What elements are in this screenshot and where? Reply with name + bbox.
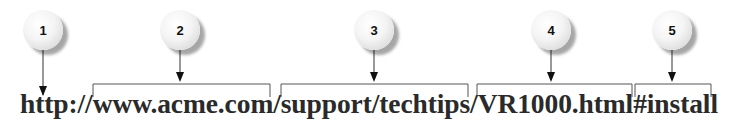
callout-1: 1 xyxy=(23,10,63,50)
callout-4: 4 xyxy=(531,10,571,50)
url-text: http://www.acme.com/support/techtips/VR1… xyxy=(20,88,718,120)
callout-5: 5 xyxy=(652,10,692,50)
url-anatomy-diagram: 1 2 3 4 5 http://www.acme.com/support/te… xyxy=(0,0,729,128)
callout-3: 3 xyxy=(354,10,394,50)
callout-2: 2 xyxy=(160,10,200,50)
